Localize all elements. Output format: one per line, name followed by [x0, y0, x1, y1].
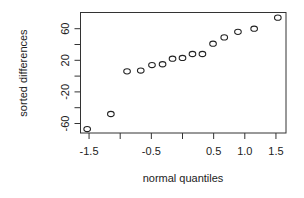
- x-axis-label: normal quantiles: [143, 172, 224, 184]
- x-tick-label: -0.5: [142, 145, 161, 157]
- x-tick-label: -1.5: [80, 145, 99, 157]
- data-point: [251, 26, 258, 31]
- data-point: [149, 62, 156, 67]
- data-point: [275, 15, 282, 20]
- data-point: [221, 35, 228, 40]
- y-tick-label: -20: [59, 84, 71, 100]
- data-point: [235, 29, 242, 34]
- data-point: [210, 41, 217, 46]
- data-point: [124, 69, 131, 74]
- x-tick-label: 1.0: [237, 145, 252, 157]
- data-point: [179, 55, 186, 60]
- data-points: [84, 15, 281, 132]
- y-tick-label: 20: [59, 54, 71, 66]
- y-axis: -60-202060: [59, 23, 81, 132]
- data-point: [169, 56, 176, 61]
- data-point: [199, 51, 206, 56]
- x-axis: -1.5-0.50.51.01.5: [80, 133, 284, 157]
- plot-frame: [81, 13, 287, 134]
- data-point: [159, 62, 166, 67]
- x-tick-label: 0.5: [206, 145, 221, 157]
- data-point: [84, 126, 91, 131]
- y-axis-label: sorted differences: [17, 29, 29, 117]
- data-point: [108, 111, 115, 116]
- data-point: [137, 68, 144, 73]
- data-point: [189, 51, 196, 56]
- x-tick-label: 1.5: [268, 145, 283, 157]
- y-tick-label: 60: [59, 23, 71, 35]
- y-tick-label: -60: [59, 116, 71, 132]
- qq-plot: -60-202060 -1.5-0.50.51.01.5 normal quan…: [0, 0, 304, 198]
